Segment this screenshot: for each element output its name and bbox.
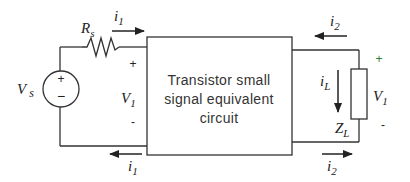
input-voltage-label: V1 — [121, 90, 136, 109]
output-voltage-label: V1 — [373, 88, 388, 107]
output-minus-sign: - — [381, 118, 385, 132]
svg-text:+: + — [57, 72, 64, 86]
circuit-diagram: Rs + − Vs + V1 - i1 i1 Transistor small … — [0, 0, 410, 182]
block-label-line-1: Transistor small — [167, 72, 270, 88]
resistor-rs-icon — [82, 38, 119, 56]
output-plus-sign: + — [375, 52, 382, 66]
load-impedance-icon — [351, 69, 367, 119]
voltage-source-icon: + − — [43, 71, 79, 107]
block-label-line-2: signal equivalent — [164, 91, 273, 107]
resistor-label: Rs — [80, 20, 94, 39]
input-plus-sign: + — [129, 57, 136, 71]
input-minus-sign: - — [131, 115, 135, 129]
block-label-line-3: circuit — [200, 110, 239, 126]
load-label: ZL — [335, 120, 349, 139]
i1-bottom-label: i1 — [128, 158, 138, 177]
svg-text:−: − — [57, 88, 65, 104]
i1-top-label: i1 — [114, 8, 124, 27]
il-label: iL — [320, 73, 330, 92]
i2-bottom-label: i2 — [327, 158, 337, 177]
i2-top-label: i2 — [330, 13, 340, 32]
source-label: Vs — [17, 81, 34, 100]
